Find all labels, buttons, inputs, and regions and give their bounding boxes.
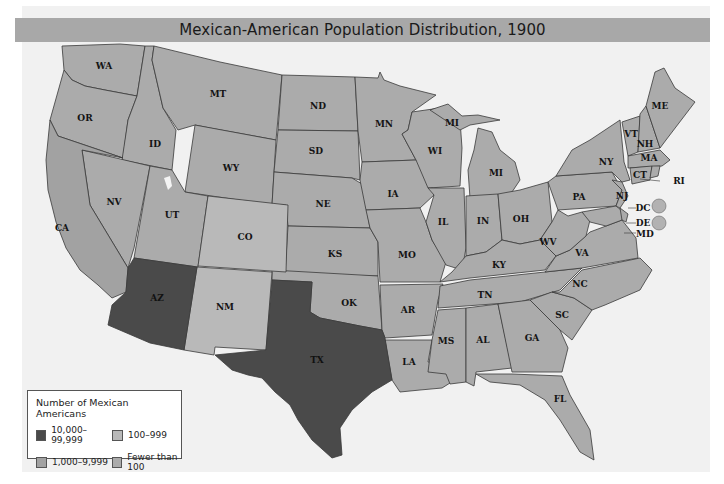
label-nh: NH	[637, 139, 654, 149]
legend-item-10000-99999: 10,000–99,999	[36, 425, 112, 445]
legend-label: 100–999	[128, 430, 167, 440]
label-ny: NY	[599, 157, 614, 167]
dc-marker	[652, 199, 666, 213]
label-ms: MS	[438, 336, 454, 346]
label-oh: OH	[513, 214, 530, 224]
label-ma: MA	[641, 153, 659, 163]
label-az: AZ	[149, 293, 164, 303]
label-md: MD	[636, 229, 654, 239]
label-la: LA	[402, 357, 416, 367]
state-ny	[556, 120, 630, 182]
label-nd: ND	[310, 101, 326, 111]
label-al: AL	[475, 335, 490, 345]
label-ne: NE	[315, 199, 330, 209]
label-vt: VT	[623, 129, 638, 139]
label-in: IN	[477, 216, 489, 226]
label-de: DE	[636, 218, 651, 228]
label-ca: CA	[55, 223, 70, 233]
legend-label: Fewer than 100	[127, 452, 192, 472]
label-mi-upper: MI	[445, 118, 459, 128]
legend-item-fewer-100: Fewer than 100	[112, 452, 192, 472]
legend-item-100-999: 100–999	[112, 425, 192, 445]
label-sd: SD	[309, 146, 323, 156]
label-ut: UT	[165, 210, 180, 220]
label-ky: KY	[492, 260, 507, 270]
legend: Number of Mexican Americans 10,000–99,99…	[27, 390, 182, 459]
label-wi: WI	[427, 146, 442, 156]
label-co: CO	[237, 232, 252, 242]
label-me: ME	[652, 101, 669, 111]
state-mi-lower	[468, 128, 520, 198]
de-marker	[652, 216, 666, 230]
label-va: VA	[574, 248, 589, 258]
label-wy: WY	[222, 163, 240, 173]
label-il: IL	[438, 217, 449, 227]
label-nv: NV	[106, 197, 122, 207]
label-tx: TX	[310, 355, 324, 365]
label-id: ID	[149, 139, 161, 149]
label-ok: OK	[341, 298, 358, 308]
label-nm: NM	[216, 302, 234, 312]
legend-label: 1,000–9,999	[52, 457, 108, 467]
state-fl	[476, 374, 594, 460]
label-tn: TN	[478, 290, 493, 300]
label-nc: NC	[572, 279, 587, 289]
legend-title: Number of Mexican Americans	[36, 397, 181, 419]
label-ia: IA	[387, 189, 399, 199]
label-wa: WA	[95, 61, 114, 71]
label-nj: NJ	[616, 191, 629, 201]
label-mi: MI	[489, 168, 503, 178]
label-ga: GA	[525, 333, 541, 343]
label-pa: PA	[572, 192, 586, 202]
label-mn: MN	[375, 119, 393, 129]
state-ri	[650, 166, 660, 178]
label-mo: MO	[398, 250, 416, 260]
label-wv: WV	[538, 237, 557, 247]
label-ks: KS	[328, 249, 342, 259]
legend-swatch-light	[112, 430, 123, 441]
legend-swatch-medium	[36, 457, 47, 468]
legend-label: 10,000–99,999	[51, 425, 112, 445]
legend-swatch-base	[112, 457, 122, 468]
label-dc: DC	[636, 203, 651, 213]
label-sc: SC	[555, 310, 569, 320]
label-fl: FL	[554, 394, 567, 404]
legend-item-1000-9999: 1,000–9,999	[36, 452, 112, 472]
label-ri: RI	[673, 176, 685, 186]
legend-swatch-dark	[36, 430, 46, 441]
label-or: OR	[77, 113, 93, 123]
label-ar: AR	[400, 305, 416, 315]
label-ct: CT	[633, 170, 647, 180]
label-mt: MT	[210, 89, 227, 99]
